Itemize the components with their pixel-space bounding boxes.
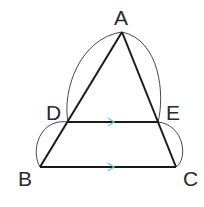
segment-AC [122, 32, 176, 167]
label-D: D [46, 101, 61, 124]
label-C: C [183, 167, 198, 190]
segment-AB [40, 32, 122, 167]
label-B: B [18, 167, 32, 190]
label-E: E [166, 101, 180, 124]
label-A: A [114, 6, 128, 29]
triangle-diagram: A D E B C [0, 0, 204, 207]
